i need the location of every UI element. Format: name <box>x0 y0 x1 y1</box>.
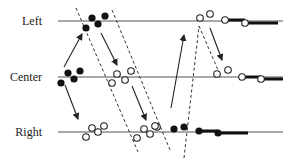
filled-dot <box>88 14 95 21</box>
open-dot <box>83 134 90 141</box>
open-dot <box>239 74 246 81</box>
filled-dot <box>214 129 221 136</box>
row-label-right: Right <box>15 125 42 139</box>
open-dot <box>134 135 141 142</box>
open-dot <box>95 129 102 136</box>
filled-dot <box>64 69 71 76</box>
open-dot <box>225 67 232 74</box>
open-dot <box>152 123 159 130</box>
filled-dot <box>170 125 177 132</box>
arrow-icon <box>65 85 78 119</box>
row-label-center: Center <box>10 70 42 84</box>
filled-dot <box>76 67 83 74</box>
open-dot <box>258 76 265 83</box>
filled-dot <box>180 123 187 130</box>
open-dots <box>83 11 265 142</box>
open-dot <box>114 71 121 78</box>
open-dot <box>122 77 129 84</box>
open-dot <box>89 125 96 132</box>
filled-dot <box>94 20 101 27</box>
dashed-line <box>184 26 199 158</box>
open-dot <box>141 126 148 133</box>
open-dot <box>214 71 221 78</box>
open-dot <box>128 68 135 75</box>
dashed-line <box>199 26 218 70</box>
arrow-icon <box>64 34 82 67</box>
filled-dot <box>57 79 64 86</box>
open-dot <box>101 123 108 130</box>
filled-dot <box>70 75 77 82</box>
open-dot <box>242 20 249 27</box>
timeline-diagram: Left Center Right <box>0 0 304 162</box>
open-dot <box>197 15 204 22</box>
row-label-left: Left <box>22 14 43 28</box>
arrow-icon <box>101 33 117 65</box>
open-dot <box>207 11 214 18</box>
open-dot <box>147 131 154 138</box>
filled-dots <box>57 12 221 136</box>
arrow-icon <box>132 86 146 120</box>
arrow-icon <box>171 35 184 108</box>
filled-dot <box>82 24 89 31</box>
open-dot <box>222 17 229 24</box>
arrows <box>64 28 222 120</box>
open-dot <box>109 80 116 87</box>
filled-dot <box>101 12 108 19</box>
arrow-icon <box>210 28 222 60</box>
filled-dot <box>195 127 202 134</box>
